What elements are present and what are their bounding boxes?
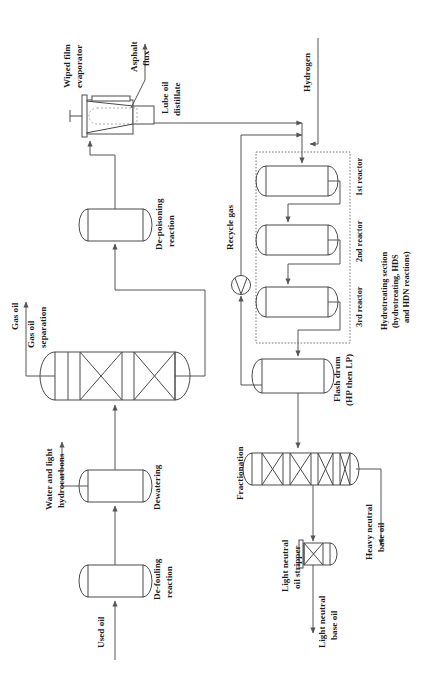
- label-gas-oil: Gas oil: [10, 302, 20, 330]
- label-flash-drum-line2: (HP then LP): [344, 354, 354, 406]
- label-stripper-line2: oil stripper: [292, 545, 302, 589]
- label-gas-oil-separation-line1: Gas oil: [26, 320, 36, 348]
- label-water-light-line1: Water and light: [44, 447, 54, 510]
- label-lube-oil-line2: distillate: [172, 82, 182, 116]
- process-flow-diagram: Used oil De-fouling reaction Dewatering …: [0, 0, 439, 695]
- label-gas-oil-separation-line2: separation: [38, 307, 48, 348]
- label-dewatering: Dewatering: [152, 464, 162, 510]
- unit-fractionation-column: [243, 453, 359, 485]
- label-hydrotreating-line3: and HDN reactions): [402, 251, 411, 323]
- label-hydrotreating-line2: (hydrotreating, HDS: [391, 254, 400, 328]
- label-de-poisoning-line1: De-poisoning: [154, 198, 164, 250]
- label-de-fouling-line1: De-fouling: [152, 558, 162, 600]
- label-wiped-film-line1: Wiped film: [62, 44, 72, 88]
- label-hydrotreating-line1: Hydrotreating section: [380, 252, 389, 330]
- label-hydrogen: Hydrogen: [302, 53, 312, 92]
- label-light-neutral-line1: Light neutral: [317, 595, 327, 648]
- label-light-neutral-line2: base oil: [329, 610, 339, 640]
- label-stripper-line1: Light neutral: [280, 539, 290, 592]
- unit-dewatering-drum: [79, 470, 152, 502]
- label-heavy-neutral-line1: Heavy neutral: [364, 504, 374, 560]
- label-water-light-line2: hydrocarbons: [56, 453, 66, 508]
- label-lube-oil-line1: Lube oil: [160, 81, 170, 114]
- unit-reactor-3: [256, 287, 338, 317]
- unit-recycle-gas-compressor: [232, 276, 251, 295]
- unit-reactor-2: [256, 225, 338, 255]
- label-reactor-1: 1st reactor: [355, 158, 364, 196]
- unit-gas-oil-separation-column: [40, 352, 190, 400]
- unit-flash-drum: [252, 359, 334, 393]
- label-recycle-gas: Recycle gas: [225, 204, 235, 250]
- label-heavy-neutral-line2: base oil: [376, 522, 386, 552]
- label-used-oil: Used oil: [96, 616, 106, 648]
- label-reactor-2: 2nd reactor: [355, 220, 364, 262]
- label-asphalt-line2: flux: [141, 50, 151, 66]
- label-flash-drum-line1: Flash drum: [332, 356, 342, 402]
- label-asphalt-line1: Asphalt: [129, 40, 139, 72]
- pfd-canvas: Used oil De-fouling reaction Dewatering …: [0, 0, 439, 695]
- unit-reactor-1: [256, 166, 338, 196]
- unit-de-fouling-reactor: [79, 565, 152, 597]
- label-reactor-3: 3rd reactor: [355, 286, 364, 327]
- canvas-background: [0, 0, 439, 695]
- label-de-poisoning-line2: reaction: [166, 215, 176, 247]
- unit-de-poisoning-reactor: [79, 209, 152, 241]
- label-wiped-film-line2: evaporator: [74, 45, 84, 88]
- label-fractionation: Fractionation: [235, 446, 245, 500]
- label-de-fouling-line2: reaction: [164, 566, 174, 598]
